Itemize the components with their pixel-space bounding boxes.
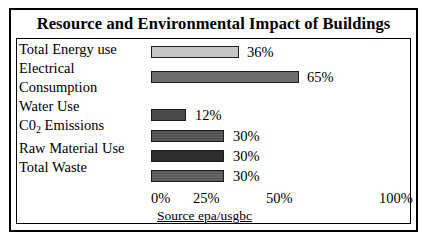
x-tick-0: 0% [151,189,170,207]
category-label-electrical: Electrical [19,59,147,78]
bar-value-electrical-consumption: 65% [307,68,334,86]
x-tick-100: 100% [379,189,413,207]
x-tick-25: 25% [193,189,220,207]
bar-row-total-waste: 30% [151,170,409,182]
bar-row-raw-material-use: 30% [151,150,409,162]
source-note: Source epa/usgbc [0,208,409,224]
bar-total-energy-use [151,46,239,58]
bar-row-water-use: 12% [151,109,409,121]
bars-plot-area: 36% 65% 12% 30% 30% 30% [151,40,409,188]
category-label-consumption: Consumption [19,78,147,97]
category-label-raw-material-use: Raw Material Use [19,139,147,158]
bar-value-raw-material-use: 30% [233,147,260,165]
bar-value-water-use: 12% [195,106,222,124]
bar-value-total-waste: 30% [233,167,260,185]
category-label-total-energy-use: Total Energy use [19,40,147,59]
x-tick-50: 50% [266,189,293,207]
category-label-column: Total Energy use Electrical Consumption … [19,40,147,177]
bar-value-co2-emissions: 30% [233,127,260,145]
bar-row-total-energy-use: 36% [151,46,409,58]
bar-electrical-consumption [151,71,299,83]
category-label-total-waste: Total Waste [19,158,147,177]
chart-screenshot: Resource and Environmental Impact of Bui… [0,0,433,243]
x-axis-tick-labels: 0% 25% 50% 100% [151,189,409,209]
bar-total-waste [151,170,224,182]
bar-row-co2-emissions: 30% [151,130,409,142]
page-title: Resource and Environmental Impact of Bui… [11,11,416,36]
co2-label-main: C0 [19,117,36,133]
bar-water-use [151,109,186,121]
bar-row-electrical-consumption: 65% [151,71,409,83]
bar-value-total-energy-use: 36% [247,43,274,61]
bar-raw-material-use [151,150,224,162]
co2-label-tail: Emissions [41,117,104,133]
bar-co2-emissions [151,130,224,142]
category-label-water-use: Water Use [19,97,147,116]
category-label-co2-emissions: C02 Emissions [19,116,147,139]
